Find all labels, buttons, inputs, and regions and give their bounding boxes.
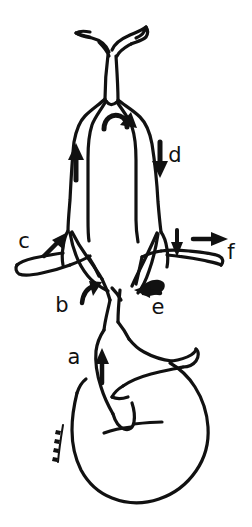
- label-b: b: [55, 293, 68, 317]
- label-a: a: [68, 345, 81, 369]
- label-d: d: [168, 143, 181, 167]
- label-c: c: [18, 229, 30, 253]
- anatomical-line-drawing: a b c d e f: [0, 0, 252, 527]
- label-f: f: [227, 240, 235, 264]
- label-e: e: [152, 295, 165, 319]
- figure-root: a b c d e f: [0, 0, 252, 527]
